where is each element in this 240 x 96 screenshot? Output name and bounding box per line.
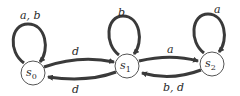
label-s2-s1: b, d bbox=[163, 81, 184, 94]
transition-s1-s1: b bbox=[109, 6, 140, 55]
label-s1-s0: d bbox=[72, 83, 79, 96]
transition-s0-s1: d bbox=[44, 45, 114, 67]
label-s1-s1: b bbox=[118, 6, 125, 19]
transition-s2-s1: b, d bbox=[142, 70, 201, 94]
label-s1-s2: a bbox=[167, 43, 174, 56]
transition-s2-s2: a bbox=[194, 3, 225, 53]
label-s0-s0: a, b bbox=[20, 9, 41, 22]
transition-s1-s2: a bbox=[139, 43, 198, 61]
label-s2-s2: a bbox=[214, 3, 221, 16]
state-diagram: a, b d d b a b, d a s0 s1 s2 bbox=[0, 0, 240, 96]
label-s0-s1: d bbox=[72, 45, 79, 58]
state-s0: s0 bbox=[21, 61, 45, 85]
state-s1: s1 bbox=[115, 54, 139, 78]
transition-s1-s0: d bbox=[48, 72, 116, 96]
transition-s0-s0: a, b bbox=[13, 9, 45, 63]
state-s2: s2 bbox=[200, 52, 224, 76]
